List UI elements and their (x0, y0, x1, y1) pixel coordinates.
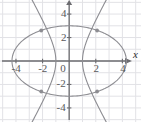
y-tick-label: 4 (61, 8, 67, 19)
intersection-point (95, 29, 99, 33)
intersection-point (39, 29, 43, 33)
x-axis-label: x (133, 49, 138, 60)
x-tick-label: 4 (120, 63, 126, 74)
y-tick-label: -4 (56, 102, 65, 113)
intersection-point (39, 90, 43, 94)
x-tick-label: 2 (94, 63, 100, 74)
x-tick-label-origin: 0 (60, 63, 66, 74)
x-tick-label: -4 (12, 63, 21, 74)
plot-canvas (0, 0, 141, 122)
y-tick-label: 2 (61, 32, 67, 43)
intersection-point (95, 90, 99, 94)
conic-graph-figure: -4-202442-2-4 x (0, 0, 141, 122)
x-tick-label: -2 (38, 63, 47, 74)
axes-group (2, 0, 132, 120)
y-tick-label: -2 (56, 78, 65, 89)
